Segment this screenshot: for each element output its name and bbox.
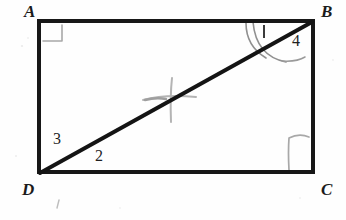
- vertex-label-a: A: [24, 3, 35, 20]
- paper-speckles: [15, 37, 334, 209]
- vertex-label-b: B: [321, 3, 332, 20]
- angle-label-4: 4: [292, 33, 300, 49]
- angle-label-1: [263, 25, 265, 38]
- diagram-canvas: A B C D 4 3 2: [0, 0, 346, 220]
- angle-label-3: 3: [53, 131, 61, 147]
- right-angle-mark-a: [43, 25, 62, 41]
- vertex-label-c: C: [321, 181, 332, 198]
- angle-label-2: 2: [95, 148, 103, 164]
- angle-arc-b-two: [253, 22, 286, 62]
- vertex-label-d: D: [22, 181, 34, 198]
- angle-arc-b-three: [282, 57, 305, 61]
- right-angle-mark-c: [289, 135, 310, 170]
- stray-pencil-tick: [57, 200, 59, 208]
- diagonal-db: [40, 22, 312, 173]
